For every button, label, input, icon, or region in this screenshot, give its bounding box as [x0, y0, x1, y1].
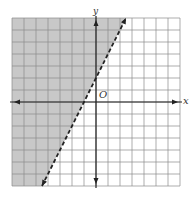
- y-axis-label: y: [93, 6, 98, 16]
- inequality-graph: [0, 0, 195, 198]
- origin-label: O: [99, 89, 107, 100]
- x-axis-label: x: [183, 95, 189, 106]
